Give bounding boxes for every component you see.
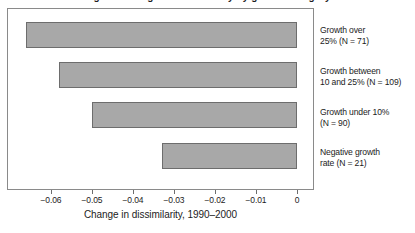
x-tick-label: −0.05 [81,195,102,205]
x-tick-label: −0.02 [204,195,225,205]
category-label-line: Negative growth [320,147,415,158]
category-label-line: Growth under 10% [320,107,415,118]
bar-chart-figure: Figure: Change in dissimilarity by growt… [0,0,415,233]
bars-layer [7,8,314,190]
x-tick-mark [51,190,52,194]
category-label-growth-under-10: Growth under 10%(N = 90) [320,107,415,129]
chart-title: Figure: Change in dissimilarity by growt… [0,0,415,2]
bar-negative-growth [162,143,297,169]
x-tick-mark [174,190,175,194]
x-tick-label: −0.01 [245,195,266,205]
x-tick-label: 0 [295,195,300,205]
x-tick-mark [215,190,216,194]
bar-growth-over-25 [26,22,297,48]
x-tick-label: −0.03 [163,195,184,205]
x-tick-mark [92,190,93,194]
cropped-title-strip: Figure: Change in dissimilarity by growt… [0,0,415,4]
x-tick-label: −0.04 [122,195,143,205]
bar-growth-under-10 [92,102,297,128]
category-label-line: rate (N = 21) [320,158,415,169]
category-label-line: Growth between [320,66,415,77]
category-label-growth-10-to-25: Growth between10 and 25% (N = 109) [320,66,415,88]
x-tick-label: −0.06 [40,195,61,205]
x-tick-mark [133,190,134,194]
category-label-line: 10 and 25% (N = 109) [320,77,415,88]
x-tick-mark [297,190,298,194]
category-label-line: 25% (N = 71) [320,36,415,47]
x-tick-mark [256,190,257,194]
x-axis-title: Change in dissimilarity, 1990–2000 [7,209,314,220]
category-label-negative-growth: Negative growthrate (N = 21) [320,147,415,169]
category-label-line: Growth over [320,25,415,36]
category-label-line: (N = 90) [320,118,415,129]
category-label-growth-over-25: Growth over25% (N = 71) [320,25,415,47]
bar-growth-10-to-25 [59,62,297,88]
